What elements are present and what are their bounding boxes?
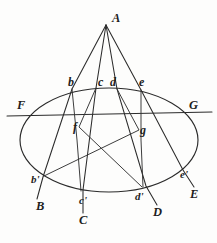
label-point-e-terminal: E <box>190 188 198 201</box>
ray-a-b-bprime-b <box>37 25 106 199</box>
axis-line-fg <box>7 112 212 116</box>
label-point-b: b <box>68 76 74 88</box>
label-point-d: d <box>110 76 116 88</box>
label-point-g: g <box>140 124 146 136</box>
label-point-f: f <box>73 121 77 133</box>
label-point-a: A <box>112 12 120 25</box>
chord-e-dprime <box>141 90 143 187</box>
label-point-d-terminal: D <box>153 206 162 219</box>
ellipse-conic <box>20 88 198 192</box>
chord-b-cprime <box>72 89 81 191</box>
ray-a-e-eprime-e <box>106 25 194 187</box>
label-point-b-prime: b' <box>31 174 40 185</box>
diagram-canvas: A b c d e f g F G b' c' d' e' B C D E <box>0 0 217 243</box>
label-point-c-prime: c' <box>79 195 87 206</box>
ray-a-c-cprime-c <box>83 25 106 213</box>
label-point-f-axis: F <box>17 99 25 112</box>
label-point-g-axis: G <box>189 99 198 112</box>
label-point-c: c <box>98 76 103 88</box>
chord-d-g-bprime <box>44 89 139 176</box>
label-point-b-terminal: B <box>36 200 44 213</box>
label-point-d-prime: d' <box>135 191 144 202</box>
chord-c-f-dprime <box>79 88 142 187</box>
diagram-svg <box>0 0 217 243</box>
label-point-c-terminal: C <box>79 214 87 227</box>
label-point-e: e <box>139 76 144 88</box>
ray-a-d-dprime-d <box>106 25 157 205</box>
label-point-e-prime: e' <box>180 169 188 180</box>
